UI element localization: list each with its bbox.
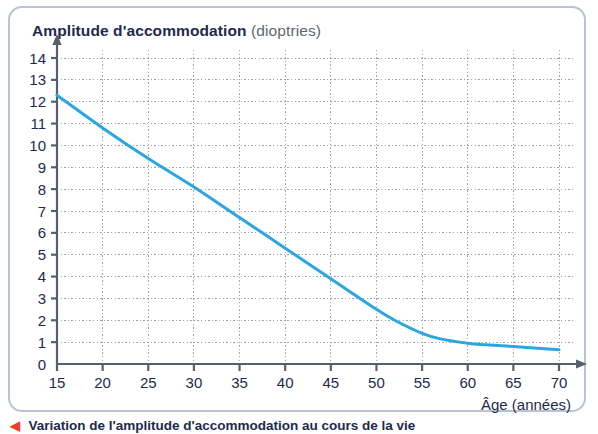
caption-bullet-icon: ◀ [10, 418, 20, 434]
svg-text:8: 8 [38, 181, 46, 198]
svg-text:13: 13 [29, 71, 46, 88]
svg-text:35: 35 [231, 374, 248, 391]
svg-text:15: 15 [49, 374, 66, 391]
plot-area: 0123456789101112131415202530354045505560… [10, 8, 588, 414]
svg-text:45: 45 [322, 374, 339, 391]
line-chart-svg: 0123456789101112131415202530354045505560… [10, 8, 588, 414]
axis-lines [52, 34, 587, 369]
svg-text:5: 5 [38, 246, 46, 263]
svg-text:40: 40 [277, 374, 294, 391]
svg-text:12: 12 [29, 93, 46, 110]
grid-lines [57, 50, 573, 364]
svg-text:60: 60 [459, 374, 476, 391]
axis-name-layer: Âge (années) [481, 396, 571, 413]
svg-text:4: 4 [38, 268, 46, 285]
svg-text:30: 30 [186, 374, 203, 391]
data-line-amplitude [57, 95, 559, 350]
x-axis-label: Âge (années) [481, 396, 571, 413]
svg-text:3: 3 [38, 290, 46, 307]
svg-text:65: 65 [505, 374, 522, 391]
figure-panel: Amplitude d'accommodation (dioptries) 01… [8, 6, 586, 412]
svg-text:25: 25 [140, 374, 157, 391]
svg-text:1: 1 [38, 334, 46, 351]
svg-text:7: 7 [38, 203, 46, 220]
axis-ticks [51, 58, 559, 371]
axis-tick-labels: 0123456789101112131415202530354045505560… [29, 50, 567, 392]
svg-text:0: 0 [38, 356, 46, 373]
caption-text: Variation de l'amplitude d'accommodation… [28, 418, 415, 434]
svg-text:20: 20 [94, 374, 111, 391]
svg-text:55: 55 [414, 374, 431, 391]
svg-text:11: 11 [30, 115, 46, 132]
svg-text:2: 2 [38, 312, 46, 329]
svg-text:10: 10 [29, 137, 46, 154]
figure-caption: ◀ Variation de l'amplitude d'accommodati… [10, 418, 588, 434]
svg-text:9: 9 [38, 159, 46, 176]
svg-text:70: 70 [551, 374, 568, 391]
svg-text:50: 50 [368, 374, 385, 391]
svg-text:14: 14 [29, 50, 46, 67]
data-series-layer [57, 95, 559, 350]
svg-text:6: 6 [38, 224, 46, 241]
